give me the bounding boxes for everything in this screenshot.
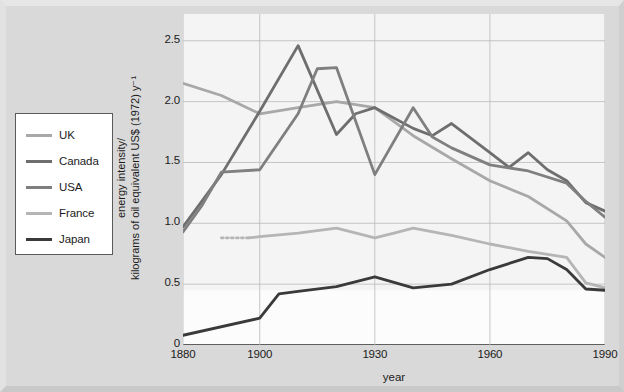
x-tick-label: 1880 (171, 348, 196, 360)
x-tick-label: 1960 (478, 348, 503, 360)
x-tick-label: 1930 (362, 348, 387, 360)
plot-area (183, 14, 605, 345)
figure-container: UKCanadaUSAFranceJapan energy intensity/… (0, 0, 624, 392)
x-tick-label: 1900 (247, 348, 272, 360)
x-axis-title: year (383, 371, 405, 383)
chart-lines (183, 14, 605, 345)
x-tick-label: 1990 (593, 348, 618, 360)
